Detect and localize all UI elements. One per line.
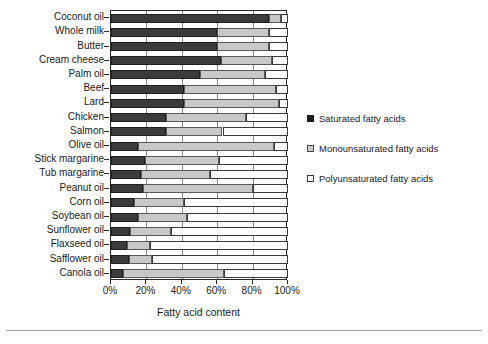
x-axis-tick-label: 80% [232, 285, 272, 297]
y-axis-tick [104, 46, 109, 47]
bar-segment [279, 99, 288, 108]
y-axis-tick [104, 273, 109, 274]
bar-segment [269, 14, 281, 23]
figure: Coconut oilWhole milkButterCream cheeseP… [0, 0, 488, 344]
y-axis-label: Salmon [70, 125, 104, 136]
bar-row [111, 142, 286, 151]
bar-segment [111, 113, 166, 122]
y-axis-label: Olive oil [68, 139, 104, 150]
bar-segment [111, 99, 184, 108]
y-axis-label: Stick margarine [35, 153, 104, 164]
bar-segment [152, 255, 288, 264]
y-axis-tick [104, 244, 109, 245]
y-axis-tick [104, 173, 109, 174]
y-axis-label: Cream cheese [39, 54, 104, 65]
bar-segment [210, 170, 288, 179]
legend-label: Monounsaturated fatty acids [319, 143, 438, 154]
y-axis-label: Soybean oil [52, 210, 104, 221]
bar-row [111, 156, 286, 165]
bar-segment [187, 213, 288, 222]
bar-segment [111, 85, 184, 94]
bar-segment [123, 269, 224, 278]
x-axis-tick [252, 280, 253, 284]
y-axis-tick [104, 202, 109, 203]
bar-row [111, 70, 286, 79]
x-axis-tick [145, 280, 146, 284]
bar-segment [111, 28, 217, 37]
y-axis-label: Corn oil [70, 196, 104, 207]
bar-segment [166, 113, 246, 122]
bar-segment [111, 241, 127, 250]
bar-segment [184, 99, 280, 108]
bar-row [111, 213, 286, 222]
y-axis-tick [104, 17, 109, 18]
y-axis-tick [104, 102, 109, 103]
y-axis-label: Sunflower oil [47, 224, 104, 235]
y-axis-tick [104, 188, 109, 189]
x-axis-tick-label: 100% [267, 285, 307, 297]
bar-segment [274, 142, 288, 151]
y-axis-tick [104, 230, 109, 231]
x-axis-tick [216, 280, 217, 284]
bar-segment [276, 85, 288, 94]
bar-rows [111, 11, 286, 279]
y-axis-tick [104, 60, 109, 61]
bar-row [111, 42, 286, 51]
legend-item: Saturated fatty acids [307, 113, 485, 124]
y-axis-label: Butter [77, 40, 104, 51]
y-axis-tick [104, 88, 109, 89]
bar-segment [171, 227, 288, 236]
legend-item: Polyunsaturated fatty acids [307, 173, 485, 184]
bar-segment [134, 198, 184, 207]
y-axis-tick [104, 259, 109, 260]
bar-segment [265, 70, 288, 79]
x-axis-tick [110, 280, 111, 284]
bar-segment [150, 241, 288, 250]
bar-segment [224, 269, 288, 278]
bar-segment [253, 184, 288, 193]
bar-segment [138, 142, 274, 151]
bar-segment [269, 42, 288, 51]
bar-segment [111, 269, 123, 278]
y-axis-label: Beef [83, 82, 104, 93]
bar-segment [127, 241, 150, 250]
bar-segment [111, 14, 269, 23]
bar-segment [184, 85, 276, 94]
bar-segment [111, 184, 143, 193]
bar-row [111, 113, 286, 122]
bar-row [111, 127, 286, 136]
x-axis-title: Fatty acid content [110, 306, 287, 318]
legend-label: Saturated fatty acids [319, 113, 406, 124]
saturated-swatch-icon [307, 115, 314, 122]
y-axis-tick [104, 117, 109, 118]
legend-item: Monounsaturated fatty acids [307, 143, 485, 154]
x-axis-tick-label: 0% [90, 285, 130, 297]
bar-row [111, 227, 286, 236]
y-axis-tick [104, 145, 109, 146]
bar-row [111, 184, 286, 193]
bar-segment [219, 156, 288, 165]
bar-segment [269, 28, 288, 37]
x-axis-tick-label: 20% [125, 285, 165, 297]
bar-segment [246, 113, 288, 122]
y-axis-label: Canola oil [60, 267, 104, 278]
x-axis-tick-label: 60% [196, 285, 236, 297]
legend-label: Polyunsaturated fatty acids [319, 173, 433, 184]
polyunsaturated-swatch-icon [307, 175, 314, 182]
bar-segment [111, 42, 217, 51]
bar-segment [130, 227, 171, 236]
bar-row [111, 170, 286, 179]
bar-row [111, 198, 286, 207]
y-axis-tick [104, 159, 109, 160]
bar-segment [141, 170, 210, 179]
bar-segment [200, 70, 265, 79]
plot-area [110, 10, 287, 280]
y-axis-label: Peanut oil [60, 182, 104, 193]
bar-segment [145, 156, 219, 165]
y-axis-label: Tub margarine [39, 167, 104, 178]
y-axis-label: Flaxseed oil [51, 238, 104, 249]
x-axis-tick-label: 40% [161, 285, 201, 297]
y-axis-tick [104, 131, 109, 132]
bar-segment [184, 198, 288, 207]
bar-segment [111, 255, 129, 264]
